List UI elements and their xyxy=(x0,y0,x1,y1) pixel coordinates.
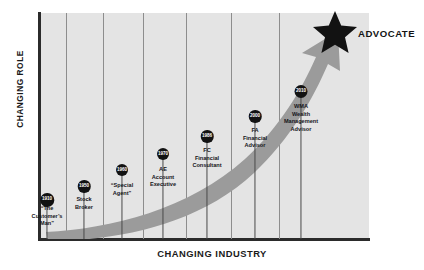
milestone-caption: FAFinancialAdvisor xyxy=(233,127,277,150)
caption-line: Management xyxy=(279,118,323,126)
milestone-caption: WMAWealthManagementAdvisor xyxy=(279,103,323,133)
milestone-year-bubble: 1970 xyxy=(157,148,169,160)
milestone-marker: 1960 xyxy=(102,164,142,239)
caption-line: Wealth xyxy=(279,111,323,119)
caption-line: Financial xyxy=(185,155,229,163)
caption-line: Man” xyxy=(25,220,69,228)
star-icon xyxy=(312,10,358,54)
milestone-year-bubble: 1950 xyxy=(78,180,91,193)
milestone-year-bubble: 2010 xyxy=(295,85,308,98)
caption-line: Account xyxy=(141,174,185,182)
caption-line: Customer’s xyxy=(25,213,69,221)
milestone-caption: “SpecialAgent” xyxy=(100,182,144,197)
caption-line: Advisor xyxy=(233,142,277,150)
x-axis-title: CHANGING INDUSTRY xyxy=(0,248,424,259)
caption-line: Broker xyxy=(62,204,106,212)
milestone-year-bubble: 1960 xyxy=(116,164,128,176)
caption-line: FA xyxy=(233,127,277,135)
caption-line: Advisor xyxy=(279,126,323,134)
caption-line: Financial xyxy=(233,135,277,143)
diagram-canvas: CHANGING ROLE ADVOCATE 19101950196019701… xyxy=(0,0,424,270)
milestone-caption: AEAccountExecutive xyxy=(141,166,185,189)
caption-line: WMA xyxy=(279,103,323,111)
caption-line: Consultant xyxy=(185,162,229,170)
caption-line: Agent” xyxy=(100,190,144,198)
caption-line: “Special xyxy=(100,182,144,190)
y-axis-title: CHANGING ROLE xyxy=(15,29,25,149)
milestone-year-bubble: 1986 xyxy=(201,130,214,143)
caption-line: FC xyxy=(185,147,229,155)
caption-line: Executive xyxy=(141,181,185,189)
milestone-caption: FCFinancialConsultant xyxy=(185,147,229,170)
caption-line: AE xyxy=(141,166,185,174)
advocate-label: ADVOCATE xyxy=(358,28,415,39)
milestone-year-bubble: 2000 xyxy=(249,110,262,123)
milestone-stem xyxy=(83,186,84,239)
milestone-caption: StockBroker xyxy=(62,196,106,211)
milestone-marker: 1970 xyxy=(143,148,183,239)
milestone-stem xyxy=(121,170,122,239)
